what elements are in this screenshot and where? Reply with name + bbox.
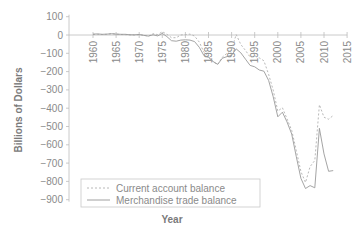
x-tick-label: 1985 — [203, 41, 214, 64]
y-tick-label: 0 — [57, 30, 63, 41]
x-tick-label: 1965 — [111, 41, 122, 64]
x-tick-label: 2010 — [319, 41, 330, 64]
y-tick-label: −400 — [40, 103, 63, 114]
chart: 1000−100−200−300−400−500−600−700−800−900… — [0, 0, 364, 239]
y-tick-label: −800 — [40, 176, 63, 187]
y-tick-label: −300 — [40, 84, 63, 95]
legend: Current account balance Merchandise trad… — [81, 179, 260, 207]
y-tick-label: 100 — [46, 11, 63, 22]
x-axis: 1960196519701975198019851990199520002005… — [69, 32, 353, 63]
x-tick-label: 2015 — [342, 41, 353, 64]
y-axis: 1000−100−200−300−400−500−600−700−800−900 — [40, 11, 69, 205]
legend-label-merchandise-trade: Merchandise trade balance — [116, 195, 237, 206]
y-tick-label: −200 — [40, 66, 63, 77]
y-tick-label: −500 — [40, 121, 63, 132]
y-tick-label: −100 — [40, 48, 63, 59]
x-tick-label: 1995 — [249, 41, 260, 64]
y-axis-title: Billions of Dollars — [13, 67, 24, 152]
x-axis-title: Year — [161, 214, 182, 225]
x-tick-label: 2005 — [295, 41, 306, 64]
x-tick-label: 1975 — [157, 41, 168, 64]
y-tick-label: −600 — [40, 139, 63, 150]
x-tick-label: 1980 — [180, 41, 191, 64]
legend-label-current-account: Current account balance — [116, 183, 225, 194]
x-tick-label: 1960 — [88, 41, 99, 64]
y-tick-label: −700 — [40, 158, 63, 169]
x-tick-label: 2000 — [272, 41, 283, 64]
x-tick-label: 1990 — [226, 41, 237, 64]
x-tick-label: 1970 — [134, 41, 145, 64]
y-tick-label: −900 — [40, 194, 63, 205]
